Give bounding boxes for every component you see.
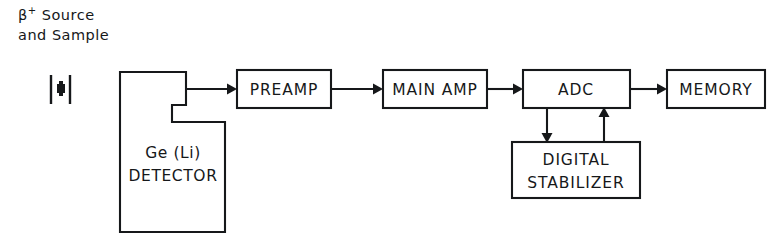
digital-stabilizer-label-line1: DIGITAL: [543, 151, 610, 169]
detector-label-line1: Ge (Li): [145, 144, 201, 162]
memory-label: MEMORY: [679, 81, 752, 99]
preamp-label: PREAMP: [250, 81, 319, 99]
connector-adc-to-memory: [630, 84, 667, 95]
arrowhead-preamp-in: [227, 84, 237, 95]
connector-stabilizer-to-adc: [599, 107, 610, 142]
detector-label-line2: DETECTOR: [128, 167, 217, 185]
diagram-canvas: Ge (Li) DETECTOR PREAMP MAIN AMP ADC MEM…: [0, 0, 783, 242]
connector-detector-to-preamp: [186, 84, 237, 95]
digital-stabilizer-label-line2: STABILIZER: [527, 174, 624, 192]
connector-main-amp-to-adc: [487, 84, 523, 95]
source-pellet-stem-icon: [59, 81, 63, 96]
adc-block[interactable]: ADC: [523, 70, 630, 108]
main-amp-label: MAIN AMP: [392, 81, 478, 99]
preamp-block[interactable]: PREAMP: [237, 70, 331, 108]
main-amp-block[interactable]: MAIN AMP: [383, 70, 487, 108]
connector-preamp-to-main-amp: [331, 84, 383, 95]
memory-block[interactable]: MEMORY: [667, 70, 765, 108]
beta-source-symbol: [51, 75, 70, 104]
arrowhead-adc-in: [513, 84, 523, 95]
adc-label: ADC: [558, 81, 594, 99]
arrowhead-memory-in: [657, 84, 667, 95]
arrowhead-mainamp-in: [373, 84, 383, 95]
detector-block[interactable]: Ge (Li) DETECTOR: [120, 72, 225, 232]
connector-adc-to-stabilizer: [542, 108, 553, 143]
digital-stabilizer-block[interactable]: DIGITAL STABILIZER: [512, 142, 640, 198]
block-diagram-figure: β+ Source and Sample Ge (Li) DETECTOR PR…: [0, 0, 783, 242]
